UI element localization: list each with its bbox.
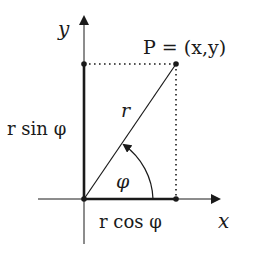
r-sin-phi-label: r sin φ	[7, 120, 66, 138]
y-axis-label: y	[58, 19, 69, 39]
point-p-dot	[173, 61, 179, 67]
angle-phi-label: φ	[116, 172, 129, 191]
point-p-label: P = (x,y)	[143, 38, 226, 57]
radius-line	[84, 64, 176, 199]
x-projection-dot	[173, 196, 179, 202]
x-axis-label: x	[218, 211, 229, 231]
radius-label: r	[121, 101, 130, 120]
y-projection-dot	[81, 61, 87, 67]
r-cos-phi-label: r cos φ	[99, 213, 162, 231]
origin-dot	[81, 196, 87, 202]
